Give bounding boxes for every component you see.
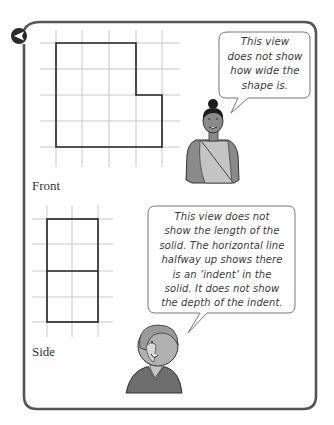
bubble-line: is an ‘indent’ in the [150,268,294,282]
bubble-line: halfway up shows there [150,253,294,267]
front-view-label: Front [32,178,60,194]
person-illustration [126,325,182,393]
bubble-line: solid. It does not show [150,282,294,296]
speech-bubble-1-text: This view does not show how wide the sha… [221,35,309,93]
bubble-line: show the length of the [150,224,294,238]
bubble-line: This view [221,35,309,50]
bubble-line: solid. The horizontal line [150,239,294,253]
bubble-line: how wide the [221,64,309,79]
left-arrow-circle-icon [11,28,27,44]
textbook-page: Front Side This view does not show how w… [0,0,334,425]
bubble-line: shape is. [221,79,309,94]
bubble-line: the depth of the indent. [150,296,294,310]
side-view-label: Side [32,344,55,360]
speech-bubble-2-text: This view does not show the length of th… [150,210,294,311]
bubble-line: does not show [221,50,309,65]
woman-illustration [186,99,239,183]
bubble-line: This view does not [150,210,294,224]
